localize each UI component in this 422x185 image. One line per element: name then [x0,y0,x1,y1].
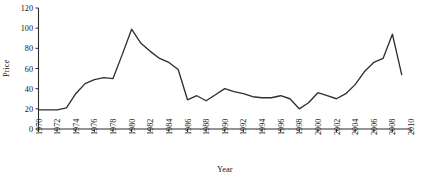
x-tick-label: 2002 [333,119,342,135]
x-tick-label: 1980 [128,119,137,135]
x-tick-label: 2004 [351,119,360,135]
x-tick-label: 1982 [146,119,155,135]
x-tick-label: 2000 [314,119,323,135]
y-tick-label: 80 [25,44,33,53]
y-tick-label: 100 [21,24,33,33]
x-axis-title: Year [217,165,233,174]
x-tick-label: 1994 [258,119,267,135]
y-tick-label: 20 [25,105,33,114]
y-tick-label: 120 [21,4,33,13]
x-tick-label: 1978 [109,119,118,135]
x-tick-label: 2006 [370,119,379,135]
chart-figure: 020406080100120 197019721974197619781980… [0,0,422,185]
x-tick-label: 1990 [221,119,230,135]
x-tick-label: 1972 [53,119,62,135]
x-tick-label: 1986 [184,119,193,135]
y-axis-ticks: 020406080100120 [21,4,39,134]
y-axis-title: Price [2,60,11,77]
y-tick-label: 60 [25,65,33,74]
x-tick-label: 1988 [202,119,211,135]
x-tick-label: 2010 [407,119,416,135]
x-tick-label: 1976 [90,119,99,135]
price-series-line [39,29,402,110]
axis-frame [39,8,412,129]
x-tick-label: 1984 [165,119,174,135]
x-tick-label: 1992 [239,119,248,135]
line-chart-canvas: 020406080100120 197019721974197619781980… [0,0,422,185]
y-tick-label: 0 [29,125,33,134]
y-tick-label: 40 [25,85,33,94]
x-axis-ticks: 1970197219741976197819801982198419861988… [35,119,417,135]
x-tick-label: 1996 [277,119,286,135]
x-tick-label: 2008 [388,119,397,135]
x-tick-label: 1998 [295,119,304,135]
x-tick-label: 1974 [72,119,81,135]
